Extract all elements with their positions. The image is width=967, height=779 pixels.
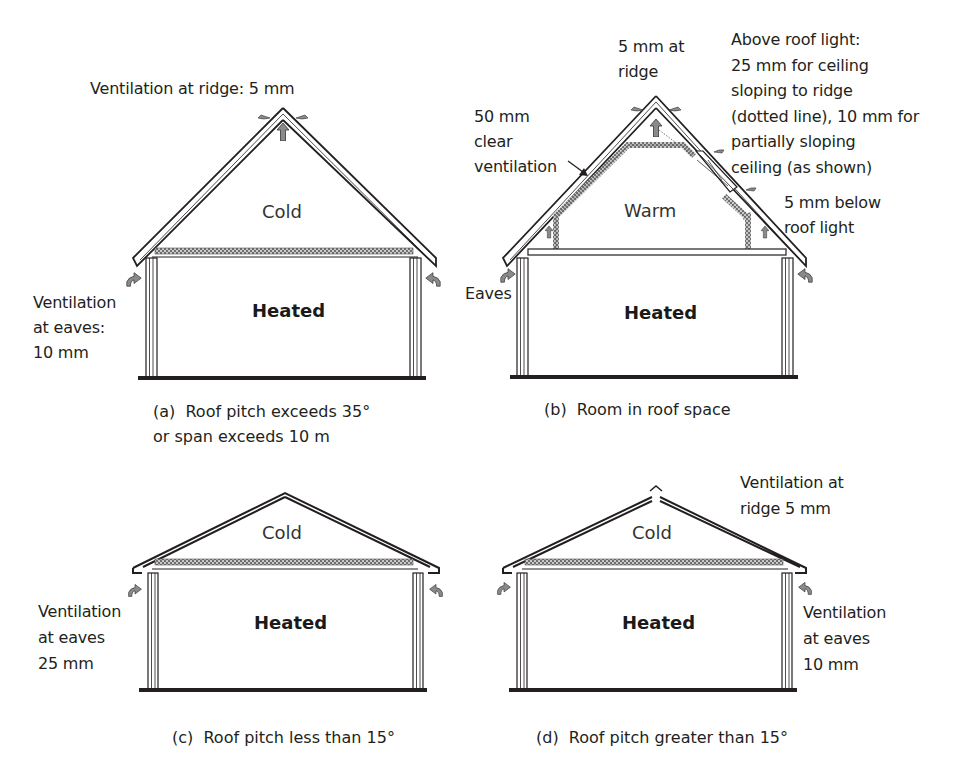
airflow-arrow-icon: [650, 119, 662, 137]
airflow-arrow-icon: [498, 582, 511, 594]
panel-b-caption: (b) Room in roof space: [544, 399, 731, 420]
wall-right: [782, 258, 793, 378]
panel-c-caption: (c) Roof pitch less than 15°: [172, 727, 395, 748]
wall-left: [517, 573, 527, 690]
panel-a-ridge-annotation: Ventilation at ridge: 5 mm: [90, 79, 294, 99]
loft-insulation: [155, 248, 413, 254]
airflow-arrow-icon: [129, 584, 142, 596]
floor-slab: [509, 688, 797, 692]
floor-slab: [510, 375, 798, 379]
panel-b-lower-zone: Heated: [624, 302, 697, 323]
panel-d-caption: (d) Roof pitch greater than 15°: [536, 727, 788, 748]
pointer-arrow: [568, 161, 583, 172]
panel-a-house: [127, 108, 440, 380]
panel-b-eaves-annotation: Eaves: [465, 284, 512, 304]
panel-c-upper-zone: Cold: [262, 522, 302, 543]
airflow-arrow-icon: [761, 226, 769, 238]
floor-slab: [139, 688, 427, 692]
panel-b-upper-zone: Warm: [624, 200, 676, 221]
panel-c-lower-zone: Heated: [254, 612, 327, 633]
roof-right-rafter: [283, 108, 436, 266]
airflow-arrow-icon: [545, 226, 553, 238]
wall-left: [146, 258, 157, 378]
room-insulation: [556, 145, 748, 250]
airflow-arrow-icon: [127, 273, 141, 287]
wall-left: [148, 573, 158, 690]
panel-a-upper-zone: Cold: [262, 201, 302, 222]
panel-b-ridge-annotation: 5 mm at ridge: [618, 34, 684, 84]
airflow-arrow-icon: [277, 123, 289, 141]
ridge-vent-cap: [650, 486, 662, 491]
wall-right: [413, 573, 423, 690]
panel-d-ridge-annotation: Ventilation at ridge 5 mm: [740, 470, 844, 522]
airflow-arrow-icon: [501, 269, 515, 283]
panel-c-eaves-annotation: Ventilation at eaves 25 mm: [38, 599, 121, 677]
panel-d-lower-zone: Heated: [622, 612, 695, 633]
wall-right: [782, 573, 792, 690]
loft-insulation: [155, 559, 413, 565]
wall-left: [517, 258, 528, 378]
panel-d-eaves-annotation: Ventilation at eaves 10 mm: [803, 600, 886, 678]
panel-a-lower-zone: Heated: [252, 300, 325, 321]
wall-right: [410, 258, 421, 378]
loft-insulation: [525, 559, 783, 565]
floor-slab: [138, 376, 426, 380]
roof-left-rafter: [133, 108, 283, 266]
panel-a-caption: (a) Roof pitch exceeds 35° or span excee…: [153, 399, 370, 449]
panel-b-roof-light-above-annotation: Above roof light: 25 mm for ceiling slop…: [731, 27, 919, 180]
panel-a-eaves-annotation: Ventilation at eaves: 10 mm: [33, 290, 116, 365]
panel-b-roof-light-below-annotation: 5 mm below roof light: [784, 190, 881, 240]
panel-d-upper-zone: Cold: [632, 522, 672, 543]
panel-b-clear-ventilation-annotation: 50 mm clear ventilation: [474, 104, 557, 179]
